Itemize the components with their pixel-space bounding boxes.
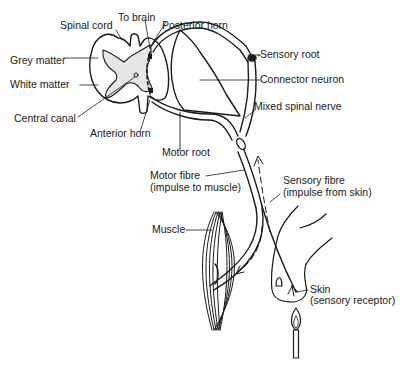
sensory-root-inner xyxy=(153,28,248,62)
posterior-horn-neuron xyxy=(148,54,152,59)
label-sensory-fibre-detail: (impulse from skin) xyxy=(283,187,372,198)
label-central-canal: Central canal xyxy=(14,113,76,124)
label-posterior-horn: Posterior horn xyxy=(162,20,228,31)
label-spinal-cord: Spinal cord xyxy=(60,20,113,31)
arc-inner-loop xyxy=(171,30,240,116)
label-white-matter: White matter xyxy=(10,79,70,90)
nerve-junction xyxy=(235,137,247,151)
label-connector-neuron: Connector neuron xyxy=(260,74,344,85)
reflex-arc-diagram: Spinal cord To brain Posterior horn Grey… xyxy=(0,0,400,365)
motor-impulse-arrow xyxy=(238,226,262,272)
label-muscle: Muscle xyxy=(152,224,185,235)
label-anterior-horn: Anterior horn xyxy=(90,128,151,139)
label-motor-fibre-detail: (impulse to muscle) xyxy=(150,182,241,193)
label-mixed-spinal-nerve: Mixed spinal nerve xyxy=(254,101,342,112)
motor-root-outer xyxy=(150,96,238,136)
grey-matter xyxy=(103,45,152,98)
label-motor-root: Motor root xyxy=(162,147,210,158)
label-sensory-fibre: Sensory fibre xyxy=(283,175,345,186)
label-grey-matter: Grey matter xyxy=(10,55,65,66)
label-sensory-root: Sensory root xyxy=(260,49,320,60)
match xyxy=(292,308,301,358)
sensory-ganglion xyxy=(248,55,256,61)
anterior-horn-neuron xyxy=(149,88,153,93)
mixed-nerve-lower-2 xyxy=(238,152,256,208)
motor-root-inner xyxy=(152,102,232,140)
mixed-nerve-right-inner xyxy=(240,62,249,132)
label-motor-fibre: Motor fibre xyxy=(150,170,200,181)
label-to-brain: To brain xyxy=(118,12,155,23)
label-skin-detail: (sensory receptor) xyxy=(310,295,395,306)
skin-receptor xyxy=(288,286,298,296)
